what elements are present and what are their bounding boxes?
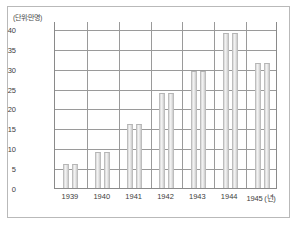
bar-group	[87, 22, 119, 188]
bar	[191, 71, 197, 188]
y-tick-label: 25	[0, 85, 16, 94]
bar	[255, 63, 261, 188]
y-tick-label: 30	[0, 65, 16, 74]
bar-group	[182, 22, 214, 188]
bar-group	[55, 22, 87, 188]
bar-group	[151, 22, 183, 188]
y-tick-label: 10	[0, 145, 16, 154]
x-tick-label: 1942	[157, 192, 174, 201]
bar	[223, 33, 229, 188]
bar	[264, 63, 270, 188]
x-tick-label: 1945 (년)	[246, 192, 275, 203]
y-tick-label: 15	[0, 125, 16, 134]
chart-figure: (단위:만명) 0510152025303540 193919401941194…	[0, 0, 297, 226]
bar	[159, 93, 165, 188]
x-tick-label: 1940	[93, 192, 110, 201]
y-tick-label: 20	[0, 105, 16, 114]
bar	[127, 124, 133, 188]
bar	[72, 164, 78, 188]
bar-group	[246, 22, 278, 188]
bar	[95, 152, 101, 188]
y-tick-label: 5	[0, 165, 16, 174]
y-tick-label: 0	[0, 185, 16, 194]
x-tick-label: 1941	[125, 192, 142, 201]
bar	[200, 71, 206, 188]
bar	[168, 93, 174, 188]
bar	[63, 164, 69, 188]
bar	[104, 152, 110, 188]
x-tick-label: 1939	[62, 192, 79, 201]
y-tick-label: 35	[0, 45, 16, 54]
bar-group	[119, 22, 151, 188]
y-axis-unit-label: (단위:만명)	[13, 12, 42, 22]
bar	[232, 33, 238, 188]
plot-area	[54, 22, 277, 189]
x-tick-label: 1944	[221, 192, 238, 201]
bar	[136, 124, 142, 188]
y-tick-label: 40	[0, 25, 16, 34]
x-tick-label: 1943	[189, 192, 206, 201]
bar-group	[214, 22, 246, 188]
